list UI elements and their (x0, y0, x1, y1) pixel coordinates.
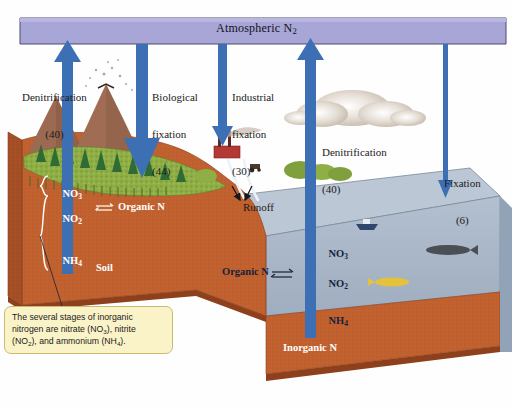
arrow-industrial-fixation (212, 44, 233, 146)
label-fixation-ocean: Fixation (6) (444, 152, 481, 251)
callout-line2: nitrogen are nitrate (NO3), nitrite (12, 324, 166, 336)
soil-left-face (8, 132, 22, 305)
soil-no3-sub: 3 (78, 192, 82, 201)
callout-line2-b: ), nitrite (107, 324, 136, 334)
water-nh4-text: NH (329, 315, 345, 326)
biological-fixation-line1: Biological (152, 91, 198, 103)
water-organic-n-label: Organic N (222, 266, 269, 278)
soil-organic-n-label: Organic N (118, 201, 165, 213)
denitrification-ocean-value: (40) (322, 183, 387, 195)
biological-fixation-line2: fixation (152, 128, 198, 140)
callout-line3: (NO2), and ammonium (NH4). (12, 336, 166, 348)
industrial-fixation-value: (30) (232, 165, 274, 177)
industrial-fixation-line1: Industrial (232, 91, 274, 103)
soil-no2-label: NO2 (52, 201, 82, 238)
runoff-label: Runoff (243, 201, 274, 213)
water-no2-label: NO2 (318, 266, 348, 303)
water-no2-text: NO (329, 278, 345, 289)
label-industrial-fixation: Industrial fixation (30) (232, 66, 274, 201)
water-no3-text: NO (329, 248, 345, 259)
fixation-ocean-line1: Fixation (444, 177, 481, 189)
label-denitrification-ocean: Denitrification (40) (322, 121, 387, 220)
callout-line3-a: (NO (12, 336, 28, 346)
callout-line3-b: ), and ammonium (NH (31, 336, 116, 346)
soil-compartment-name: Soil (96, 262, 113, 274)
soil-nh4-text: NH (63, 255, 79, 266)
fixation-ocean-value: (6) (444, 214, 481, 226)
water-no3-sub: 3 (344, 252, 348, 261)
soil-no2-sub: 2 (78, 217, 82, 226)
soil-no3-text: NO (63, 188, 79, 199)
water-nh4-sub: 4 (344, 319, 348, 328)
label-denitrification-land: Denitrification (40) (22, 66, 87, 165)
denitrification-land-line1: Denitrification (22, 91, 87, 103)
callout-line1: The several stages of inorganic (12, 312, 166, 324)
water-nh4-label: NH4 (318, 303, 348, 340)
sediment-label: Inorganic N (283, 342, 337, 354)
block-right-face (500, 196, 512, 352)
denitrification-ocean-line1: Denitrification (322, 146, 387, 158)
callout-box: The several stages of inorganic nitrogen… (4, 306, 173, 354)
nitrogen-cycle-figure: Atmospheric N2 Denitrification (40) Biol… (0, 0, 513, 406)
banner-label-text: Atmospheric N (216, 21, 292, 35)
soil-nh4-sub: 4 (78, 259, 82, 268)
water-no2-sub: 2 (344, 282, 348, 291)
biological-fixation-value: (44) (152, 165, 198, 177)
denitrification-land-value: (40) (22, 128, 87, 140)
soil-no2-text: NO (63, 213, 79, 224)
label-biological-fixation: Biological fixation (44) (152, 66, 198, 201)
callout-line2-a: nitrogen are nitrate (NO (12, 324, 103, 334)
banner-label: Atmospheric N2 (0, 21, 513, 36)
industrial-fixation-line2: fixation (232, 128, 274, 140)
callout-line3-c: ). (120, 336, 125, 346)
soil-nh4-label: NH4 (52, 243, 82, 280)
banner-label-sub: 2 (292, 26, 297, 36)
